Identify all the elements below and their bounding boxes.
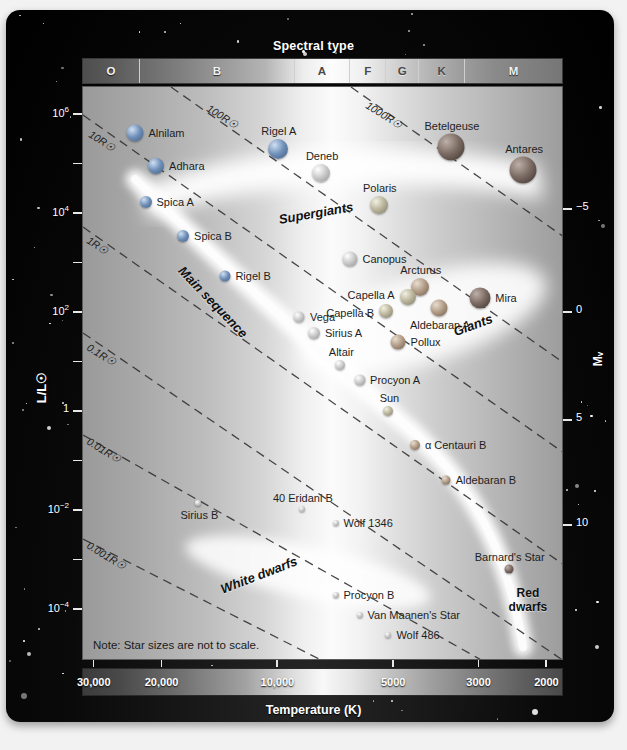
star-speck (56, 81, 57, 82)
star-marker (437, 134, 464, 161)
star-speck (575, 484, 579, 488)
magnitude-tick-label: 10 (576, 516, 588, 528)
star-speck (598, 220, 599, 221)
star-speck (287, 18, 289, 20)
spectral-class-o: O (83, 59, 140, 83)
star-speck (605, 420, 606, 421)
star-marker (312, 164, 330, 182)
magnitude-axis-label: Mᵥ (591, 352, 605, 366)
star-marker (385, 632, 391, 638)
magnitude-tick-label: 0 (576, 303, 582, 315)
star-marker (342, 252, 357, 267)
spectral-type-bar: OBAFGKM (82, 58, 563, 84)
star-label: Procyon A (370, 374, 420, 386)
luminosity-tick-label: 10−2 (48, 501, 69, 515)
magnitude-tick (563, 419, 572, 421)
star-marker (294, 311, 305, 322)
luminosity-tick (73, 212, 82, 214)
star-marker (268, 139, 288, 159)
star-speck (19, 15, 20, 16)
star-speck (581, 401, 582, 402)
star-marker (354, 374, 365, 385)
star-speck (590, 415, 592, 417)
luminosity-tick (73, 509, 82, 511)
magnitude-tick (563, 311, 572, 313)
star-speck (497, 718, 498, 719)
star-speck (27, 652, 31, 656)
temperature-tick-label: 20,000 (145, 676, 179, 688)
magnitude-tick (563, 208, 572, 210)
star-speck (408, 30, 410, 32)
star-speck (15, 527, 16, 528)
temperature-axis-bar: 30,00020,00010,000500030002000 (82, 668, 563, 696)
star-speck (62, 320, 63, 321)
star-label: Rigel B (235, 270, 270, 282)
star-label: Pollux (411, 336, 441, 348)
luminosity-tick (73, 608, 82, 610)
star-label: Van Maanen's Star (368, 609, 460, 621)
star-speck (24, 588, 25, 589)
spectral-type-title: Spectral type (0, 39, 627, 53)
temperature-tick-label: 5000 (381, 676, 405, 688)
temperature-tick-label: 30,000 (77, 676, 111, 688)
star-speck (37, 207, 39, 209)
temperature-tick (276, 660, 278, 667)
temperature-tick-label: 10,000 (261, 676, 295, 688)
star-speck (9, 660, 11, 662)
spectral-class-g: G (386, 59, 419, 83)
star-label: Capella A (348, 289, 395, 301)
luminosity-tick (73, 559, 82, 561)
star-marker (308, 327, 320, 339)
star-label: Betelgeuse (424, 120, 479, 132)
star-label: Arcturus (400, 264, 441, 276)
star-speck (67, 424, 68, 425)
temperature-tick (161, 660, 163, 667)
star-label: Polaris (363, 182, 397, 194)
magnitude-tick-label: −5 (576, 200, 589, 212)
star-label: Wolf 1346 (344, 517, 393, 529)
star-label: α Centauri B (425, 439, 486, 451)
star-speck (373, 700, 374, 701)
luminosity-tick-label: 104 (52, 204, 69, 218)
star-marker (510, 157, 537, 184)
star-label: Wolf 486 (396, 629, 439, 641)
star-speck (601, 224, 605, 228)
luminosity-tick-label: 1 (63, 402, 69, 414)
luminosity-tick-label: 106 (52, 105, 69, 119)
spectral-class-k: K (419, 59, 465, 83)
temperature-tick (545, 660, 547, 667)
star-speck (595, 645, 599, 649)
star-speck (391, 700, 392, 701)
spectral-class-a: A (295, 59, 351, 83)
star-label: Deneb (306, 150, 338, 162)
star-marker (195, 500, 201, 506)
star-marker (469, 288, 490, 309)
star-speck (411, 13, 413, 15)
star-speck (47, 426, 51, 430)
star-label: Sirius A (325, 327, 362, 339)
star-speck (12, 279, 13, 280)
star-marker (379, 304, 393, 318)
luminosity-tick (73, 460, 82, 462)
star-label: Adhara (169, 160, 204, 172)
star-speck (587, 405, 588, 406)
star-speck (23, 640, 24, 641)
region-label-red-dwarfs: Red dwarfs (509, 587, 548, 615)
star-speck (70, 116, 71, 117)
star-speck (26, 403, 27, 404)
star-marker (370, 196, 388, 214)
star-speck (38, 628, 40, 630)
star-marker (333, 592, 339, 598)
star-speck (139, 31, 140, 32)
star-speck (599, 106, 601, 108)
luminosity-tick-label: 102 (52, 303, 69, 317)
star-speck (61, 67, 63, 69)
temperature-tick (93, 660, 95, 667)
star-speck (405, 54, 406, 55)
star-label: Alnilam (148, 127, 184, 139)
temperature-tick-label: 2000 (534, 676, 558, 688)
star-speck (566, 489, 567, 490)
star-marker (335, 360, 345, 370)
star-speck (575, 609, 577, 611)
star-speck (49, 323, 50, 324)
